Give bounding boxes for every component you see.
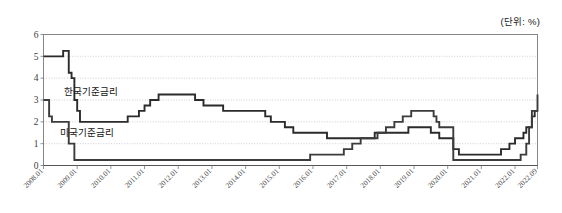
x-tick-label: 2011.01 <box>123 166 146 189</box>
chart-plot-area: 0123456 2008.012009.012010.012011.012012… <box>0 0 562 213</box>
x-tick-label: 2022.09 <box>516 166 540 190</box>
y-tick-label: 6 <box>34 30 39 40</box>
x-tick-label: 2020.01 <box>426 166 450 190</box>
y-tick-label: 5 <box>34 52 39 62</box>
y-tick-label: 2 <box>34 117 39 127</box>
series-label-us: 미국기준금리 <box>60 125 113 139</box>
x-axis-tick-labels: 2008.012009.012010.012011.012012.012013.… <box>22 166 540 190</box>
x-tick-label: 2018.01 <box>358 166 382 190</box>
gridlines-group <box>44 56 538 143</box>
y-tick-label: 3 <box>34 95 39 105</box>
x-tick-label: 2019.01 <box>392 166 416 190</box>
series-label-korea: 한국기준금리 <box>64 84 117 98</box>
x-tick-label: 2022.01 <box>493 166 517 190</box>
series-line-korea <box>44 51 538 155</box>
base-rate-line-chart: (단위: %) 0123456 2008.012009.012010.01201… <box>0 0 562 213</box>
y-tick-label: 4 <box>34 73 39 83</box>
x-tick-label: 2013.01 <box>190 166 214 190</box>
y-tick-label: 1 <box>34 139 39 149</box>
x-tick-label: 2009.01 <box>55 166 79 190</box>
x-tick-label: 2010.01 <box>89 166 113 190</box>
y-axis-tick-labels: 0123456 <box>34 30 44 171</box>
x-tick-label: 2016.01 <box>291 166 315 190</box>
x-tick-label: 2015.01 <box>257 166 281 190</box>
x-tick-label: 2021.01 <box>459 166 483 190</box>
x-tick-label: 2014.01 <box>224 166 248 190</box>
x-tick-label: 2017.01 <box>325 166 349 190</box>
x-tick-label: 2012.01 <box>156 166 180 190</box>
